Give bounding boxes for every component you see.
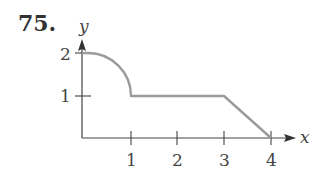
x-tick-label-1: 1 [126, 150, 137, 170]
y-axis-label: y [78, 16, 89, 36]
y-tick-label-2: 2 [60, 44, 71, 64]
x-axis-label: x [300, 127, 310, 147]
x-tick-label-3: 3 [219, 150, 230, 170]
x-tick-label-2: 2 [172, 150, 183, 170]
y-ticks [75, 53, 91, 96]
graph: 1 2 3 4 1 2 x y [0, 0, 328, 178]
y-tick-label-1: 1 [60, 86, 71, 106]
function-curve [82, 53, 271, 138]
x-tick-label-4: 4 [266, 150, 277, 170]
